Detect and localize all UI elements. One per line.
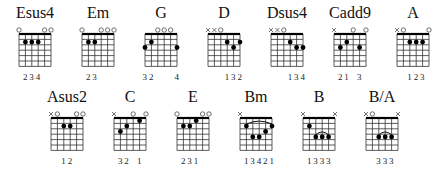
fretboard-grid xyxy=(68,22,128,72)
muted-string-icon xyxy=(269,28,273,32)
open-string-icon xyxy=(74,112,78,116)
open-string-icon xyxy=(168,28,172,32)
finger-number: 3 xyxy=(231,72,236,82)
chord-name: Bm xyxy=(226,88,286,106)
chord-diagram-g: G324 xyxy=(131,4,191,84)
finger-number: 1 xyxy=(307,156,312,166)
open-string-icon xyxy=(105,28,109,32)
open-string-icon xyxy=(282,28,286,32)
finger-dot-icon xyxy=(344,40,349,45)
finger-dot-icon xyxy=(338,45,343,50)
open-string-icon xyxy=(207,112,211,116)
finger-number: 2 xyxy=(414,72,419,82)
chord-name: Esus4 xyxy=(5,4,65,22)
finger-number: 3 xyxy=(187,156,192,166)
muted-string-icon xyxy=(275,28,279,32)
open-string-icon xyxy=(49,28,53,32)
fretboard-grid xyxy=(289,106,349,156)
fretboard-grid xyxy=(226,106,286,156)
finger-number: 1 xyxy=(344,72,349,82)
finger-number: 4 xyxy=(301,72,306,82)
finger-number: 3 xyxy=(383,156,388,166)
open-string-icon xyxy=(112,28,116,32)
muted-string-icon xyxy=(212,28,216,32)
finger-number: 1 xyxy=(244,156,249,166)
finger-number: 1 xyxy=(407,72,412,82)
finger-number: 4 xyxy=(36,72,41,82)
finger-number: 1 xyxy=(225,72,230,82)
chord-name: C xyxy=(100,88,160,106)
finger-number: 1 xyxy=(270,156,275,166)
finger-number: 3 xyxy=(294,72,299,82)
finger-number: 3 xyxy=(326,156,331,166)
open-string-icon xyxy=(351,28,355,32)
fretboard-grid xyxy=(163,106,223,156)
chord-diagram-a: A123 xyxy=(383,4,440,84)
muted-string-icon xyxy=(301,112,305,116)
open-string-icon xyxy=(162,28,166,32)
finger-dot-icon xyxy=(23,40,28,45)
muted-string-icon xyxy=(238,112,242,116)
finger-number: 1 xyxy=(194,156,199,166)
finger-dot-icon xyxy=(137,118,142,123)
open-string-icon xyxy=(401,28,405,32)
chord-diagram-d: D132 xyxy=(194,4,254,84)
finger-number: 3 xyxy=(389,156,394,166)
open-string-icon xyxy=(80,28,84,32)
open-string-icon xyxy=(364,28,368,32)
chord-diagram-em: Em23 xyxy=(68,4,128,84)
open-string-icon xyxy=(200,112,204,116)
finger-dot-icon xyxy=(313,135,318,140)
finger-dot-icon xyxy=(407,40,412,45)
open-string-icon xyxy=(99,28,103,32)
chord-name: Dsus4 xyxy=(257,4,317,22)
finger-dot-icon xyxy=(118,129,123,134)
muted-string-icon xyxy=(395,28,399,32)
finger-dot-icon xyxy=(307,124,312,129)
chord-name: Asus2 xyxy=(37,88,97,106)
chord-diagram-b-a: B/A333 xyxy=(352,88,412,168)
finger-dot-icon xyxy=(68,124,73,129)
finger-number: 2 xyxy=(124,156,129,166)
chord-diagram-dsus4: Dsus4134 xyxy=(257,4,317,84)
finger-number: 3 xyxy=(118,156,123,166)
muted-string-icon xyxy=(364,112,368,116)
fretboard-grid xyxy=(131,22,191,72)
chord-name: D xyxy=(194,4,254,22)
finger-number: 1 xyxy=(61,156,66,166)
chord-name: B/A xyxy=(352,88,412,106)
finger-dot-icon xyxy=(250,135,255,140)
finger-number: 3 xyxy=(357,72,362,82)
chord-name: E xyxy=(163,88,223,106)
finger-dot-icon xyxy=(244,124,249,129)
finger-dot-icon xyxy=(320,135,325,140)
finger-dot-icon xyxy=(149,40,154,45)
finger-dot-icon xyxy=(61,124,66,129)
open-string-icon xyxy=(370,112,374,116)
open-string-icon xyxy=(55,112,59,116)
chord-diagram-c: C321 xyxy=(100,88,160,168)
finger-dot-icon xyxy=(270,124,275,129)
chord-diagram-bm: Bm13421 xyxy=(226,88,286,168)
muted-string-icon xyxy=(332,28,336,32)
muted-string-icon xyxy=(206,28,210,32)
open-string-icon xyxy=(219,28,223,32)
finger-dot-icon xyxy=(187,124,192,129)
finger-number: 2 xyxy=(181,156,186,166)
finger-dot-icon xyxy=(294,45,299,50)
open-string-icon xyxy=(131,112,135,116)
finger-number: 3 xyxy=(320,156,325,166)
chord-diagram-e: E231 xyxy=(163,88,223,168)
fretboard-grid xyxy=(5,22,65,72)
finger-dot-icon xyxy=(301,45,306,50)
finger-dot-icon xyxy=(357,45,362,50)
finger-number: 2 xyxy=(68,156,73,166)
open-string-icon xyxy=(427,28,431,32)
finger-dot-icon xyxy=(181,124,186,129)
muted-string-icon xyxy=(333,112,337,116)
finger-dot-icon xyxy=(175,45,180,50)
fretboard-grid xyxy=(383,22,440,72)
fretboard-grid xyxy=(194,22,254,72)
finger-number: 3 xyxy=(250,156,255,166)
finger-dot-icon xyxy=(143,45,148,50)
